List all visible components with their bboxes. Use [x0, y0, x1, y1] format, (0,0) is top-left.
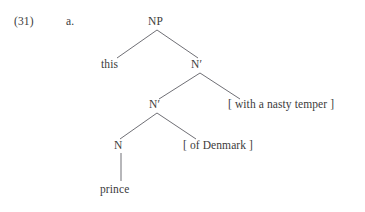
tree-adjunct-of-denmark: [ of Denmark ]	[183, 140, 253, 152]
tree-node-nbar-upper: N′	[191, 59, 202, 71]
tree-node-nbar-lower: N′	[149, 99, 160, 111]
branch-nbar1-to-pp1	[200, 73, 240, 99]
branch-np-to-nbar1	[157, 30, 198, 58]
tree-terminal-prince: prince	[100, 184, 129, 196]
syntax-tree-figure: (31) a. NP this N′ N′ [ with a nasty tem…	[0, 0, 365, 212]
example-number: (31)	[14, 16, 34, 28]
example-item-letter: a.	[66, 16, 74, 28]
tree-node-n-head: N	[114, 140, 122, 152]
tree-node-np: NP	[148, 16, 163, 28]
branch-np-to-this	[117, 30, 157, 58]
tree-terminal-this: this	[101, 59, 118, 71]
tree-adjunct-with-a-nasty-temper: [ with a nasty temper ]	[228, 99, 334, 111]
branch-nbar2-to-pp2	[157, 113, 196, 139]
branch-nbar1-to-nbar2	[159, 73, 200, 99]
branch-nbar2-to-n	[120, 113, 157, 139]
